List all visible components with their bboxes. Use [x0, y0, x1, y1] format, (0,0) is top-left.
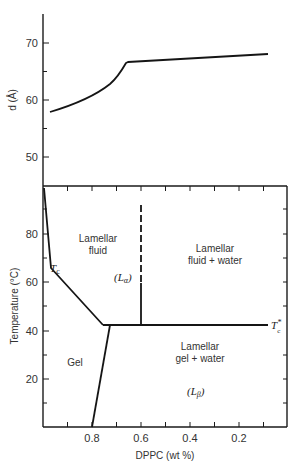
region-label-L-alpha: (Lα) [114, 271, 132, 285]
x-tick-label: 0.2 [231, 432, 246, 444]
bottom-y-axis-title: Temperature (°C) [9, 268, 20, 345]
phase-diagram-figure: 70 60 50 d (Å) [0, 0, 297, 465]
region-label-lamellar-gel-water: Lamellar [181, 341, 220, 352]
region-label-lamellar-gel-water: gel + water [175, 353, 225, 364]
x-axis-ticks [68, 422, 264, 427]
tc-boundary-line [44, 188, 103, 325]
y-tick-label: 60 [26, 94, 38, 106]
tcstar-label: T*c [271, 318, 281, 335]
top-axis-ticks [68, 186, 264, 191]
gel-boundary-line [92, 325, 110, 427]
x-tick-label: 0.6 [133, 432, 148, 444]
top-y-axis-title: d (Å) [6, 89, 18, 111]
region-label-gel: Gel [67, 357, 83, 368]
bottom-panel: 80 60 40 20 Temperature (°C) 0.8 0.6 0.4… [9, 186, 287, 461]
y-tick-label: 50 [26, 151, 38, 163]
y-tick-label: 80 [26, 228, 38, 240]
d-spacing-curve [50, 54, 268, 112]
y-tick-label: 20 [26, 373, 38, 385]
region-label-lamellar-fluid: fluid [89, 245, 107, 256]
y-tick-label: 70 [26, 37, 38, 49]
region-label-lamellar-fluid: Lamellar [79, 233, 118, 244]
x-tick-label: 0.8 [84, 432, 99, 444]
tc-label: Tc [50, 262, 60, 276]
x-axis-title: DPPC (wt %) [136, 450, 195, 461]
x-tick-label: 0.4 [182, 432, 197, 444]
y-tick-label: 40 [26, 325, 38, 337]
region-label-lamellar-fluid-water: Lamellar [196, 243, 235, 254]
chart-svg: 70 60 50 d (Å) [0, 0, 297, 465]
y-tick-label: 60 [26, 276, 38, 288]
top-panel: 70 60 50 d (Å) [6, 14, 268, 186]
region-label-L-beta: (Lβ) [187, 385, 205, 399]
region-label-lamellar-fluid-water: fluid + water [188, 255, 243, 266]
